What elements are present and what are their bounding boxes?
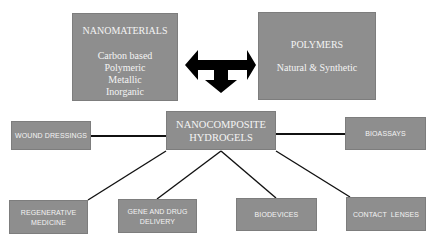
bioassays-box: BIOASSAYS [345,117,426,150]
wound-dressings-box: WOUND DRESSINGS [11,121,91,150]
hub-title-line1: NANOCOMPOSITE [176,118,266,131]
nanomaterial-item-metallic: Metallic [108,74,141,86]
biodevices-label: BIODEVICES [255,211,299,218]
bioassays-label: BIOASSAYS [365,130,405,137]
edge-contact-lenses [276,151,350,197]
regenerative-label-line1: REGENERATIVE [21,209,77,216]
regenerative-label-line2: MEDICINE [31,219,66,226]
polymers-subtitle: Natural & Synthetic [277,62,358,74]
nanomaterial-item-inorganic: Inorganic [106,86,144,98]
biodevices-box: BIODEVICES [236,198,317,231]
gene-label-line1: GENE AND DRUG [127,208,187,215]
contact-lenses-box: CONTACT LENSES [346,197,426,231]
hub-title-line2: HYDROGELS [189,131,253,144]
edge-biodevices [221,151,276,198]
nanomaterial-item-polymeric: Polymeric [104,62,145,74]
gene-label-line2: DELIVERY [140,218,175,225]
t-arrow-icon [185,50,256,93]
nanomaterial-item-carbon: Carbon based [98,50,153,62]
regenerative-medicine-box: REGENERATIVE MEDICINE [9,200,88,234]
nanomaterials-box: NANOMATERIALS Carbon based Polymeric Met… [72,13,178,101]
nanomaterials-title: NANOMATERIALS [83,25,168,36]
polymers-box: POLYMERS Natural & Synthetic [258,12,376,100]
polymers-title: POLYMERS [291,39,343,50]
edge-regenerative-medicine [88,151,166,200]
contact-lenses-label: CONTACT LENSES [353,211,419,218]
nanocomposite-hydrogels-box: NANOCOMPOSITE HYDROGELS [166,111,276,150]
edge-gene-drug-delivery [157,151,221,199]
gene-drug-delivery-box: GENE AND DRUG DELIVERY [118,199,197,233]
wound-dressings-label: WOUND DRESSINGS [15,132,87,139]
